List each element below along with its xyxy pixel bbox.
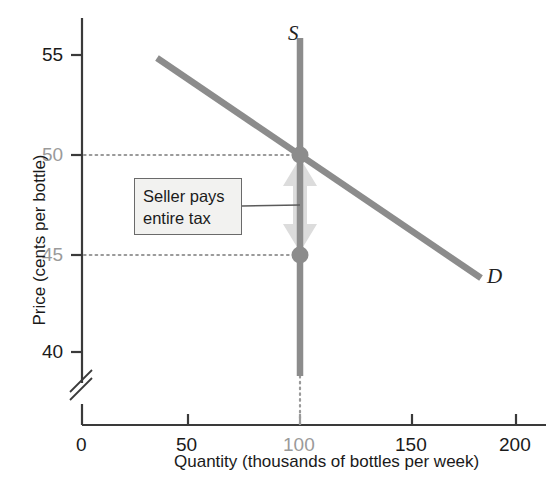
y-tick-label-55: 55 <box>42 44 63 66</box>
demand-curve-label: D <box>487 264 502 289</box>
callout-line-1: Seller pays <box>143 185 241 207</box>
demand-curve <box>157 58 481 278</box>
x-tick-label-200: 200 <box>499 434 531 456</box>
y-axis-title-text: Price (cents per bottle) <box>30 154 50 325</box>
chart-canvas <box>0 0 559 482</box>
x-tick-label-0: 0 <box>76 434 87 456</box>
callout-line-2: entire tax <box>143 207 241 229</box>
x-axis-title: Quantity (thousands of bottles per week) <box>174 452 479 472</box>
y-axis-title: Price (cents per bottle) <box>30 69 50 240</box>
supply-curve-label: S <box>288 21 299 46</box>
seller-pays-entire-tax-callout: Seller pays entire tax <box>134 178 242 235</box>
y-tick-label-40: 40 <box>42 341 63 363</box>
tax-incidence-figure: Seller pays entire tax S D 55 50 45 40 0… <box>0 0 559 482</box>
callout-leader-line <box>242 205 300 206</box>
seller-price-point-45 <box>292 247 309 264</box>
equilibrium-point-50 <box>292 147 309 164</box>
